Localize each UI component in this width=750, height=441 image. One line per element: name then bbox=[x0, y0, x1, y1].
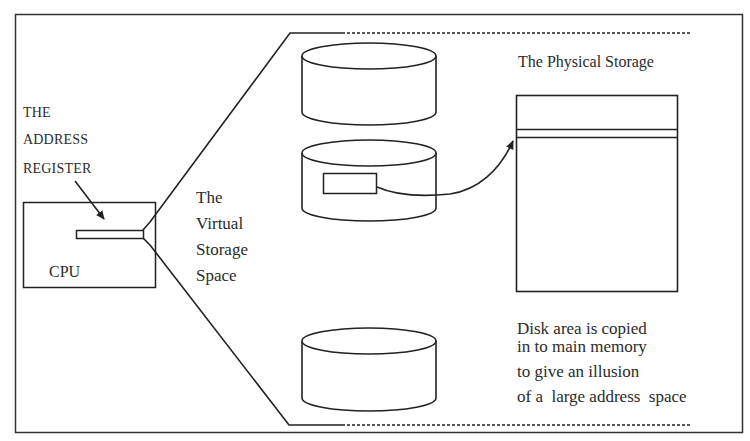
note-line-4: of a large address space bbox=[517, 386, 687, 407]
note-line-3: to give an illusion bbox=[517, 361, 639, 382]
address-register-bar bbox=[77, 231, 144, 239]
disk-area-block bbox=[324, 174, 377, 194]
label-address-register-line-2: ADDRESS bbox=[23, 133, 88, 147]
label-address-register-line-1: THE bbox=[23, 106, 51, 120]
disk-cylinder-2 bbox=[302, 140, 436, 221]
label-virtual-storage-line-1: The bbox=[196, 185, 222, 210]
label-address-register-line-3: REGISTER bbox=[23, 162, 92, 176]
label-virtual-storage-line-4: Space bbox=[196, 263, 237, 288]
physical-storage-box bbox=[517, 96, 678, 292]
label-virtual-storage-line-2: Virtual bbox=[196, 211, 243, 236]
label-virtual-storage-line-3: Storage bbox=[196, 237, 248, 262]
label-cpu: CPU bbox=[49, 264, 80, 280]
label-physical-storage: The Physical Storage bbox=[518, 54, 654, 70]
disk-cylinder-3 bbox=[302, 328, 436, 411]
cpu-box bbox=[24, 203, 156, 288]
disk-cylinder-1 bbox=[302, 43, 436, 125]
note-line-2: in to main memory bbox=[517, 336, 647, 357]
